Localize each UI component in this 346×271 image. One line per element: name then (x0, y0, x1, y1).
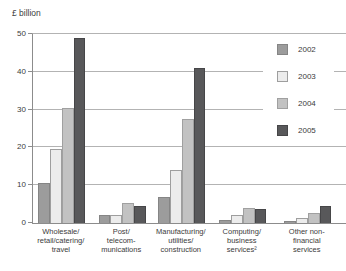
bar-chart: £ billion 01020304050 2002200320042005 W… (0, 0, 346, 271)
legend-swatch-2004 (277, 98, 288, 109)
bar-2003 (231, 215, 243, 223)
bar-2003 (170, 170, 182, 223)
y-axis-unit-label: £ billion (12, 8, 41, 18)
bar-2003 (50, 149, 62, 223)
legend-row: 2004 (263, 90, 334, 117)
y-axis-tick-label: 0 (4, 219, 26, 227)
bar-2004 (308, 213, 320, 223)
bar-2005 (255, 209, 267, 223)
x-axis-labels: Wholesale/ retail/catering/ travelPost/ … (0, 227, 346, 267)
bar-2003 (296, 218, 308, 223)
bar-2004 (62, 108, 74, 223)
y-axis-tick-label: 20 (4, 143, 26, 151)
legend-row: 2002 (263, 36, 334, 63)
y-axis-tick-label: 40 (4, 68, 26, 76)
bar-2004 (243, 208, 255, 223)
y-axis-tick (28, 184, 32, 185)
bar-2005 (320, 206, 332, 223)
y-axis-tick (28, 33, 32, 34)
legend-swatch-2005 (277, 125, 288, 136)
y-axis-tick (28, 222, 32, 223)
legend-label: 2002 (298, 45, 316, 54)
legend-label: 2004 (298, 99, 316, 108)
y-axis-tick (28, 71, 32, 72)
y-axis-tick (28, 146, 32, 147)
legend-label: 2003 (298, 72, 316, 81)
bar-2005 (194, 68, 206, 223)
y-axis-tick-label: 50 (4, 30, 26, 38)
bar-2004 (182, 119, 194, 223)
bar-2002 (284, 221, 296, 223)
legend-row: 2005 (263, 117, 334, 144)
bar-2005 (74, 38, 86, 223)
bar-2002 (158, 197, 170, 223)
y-axis-tick-label: 30 (4, 106, 26, 114)
bar-2005 (134, 206, 146, 223)
bar-2003 (110, 215, 122, 223)
bar-2002 (38, 183, 50, 223)
legend-swatch-2002 (277, 44, 288, 55)
x-category-label: Other non- financial services (271, 227, 343, 254)
bar-2004 (122, 203, 134, 223)
bar-2002 (219, 220, 231, 223)
legend: 2002200320042005 (263, 36, 334, 144)
y-axis-tick-label: 10 (4, 181, 26, 189)
legend-label: 2005 (298, 126, 316, 135)
bar-2002 (99, 215, 111, 223)
legend-swatch-2003 (277, 71, 288, 82)
x-category-label: Computing/ business services² (206, 227, 278, 254)
legend-row: 2003 (263, 63, 334, 90)
y-axis-tick (28, 109, 32, 110)
